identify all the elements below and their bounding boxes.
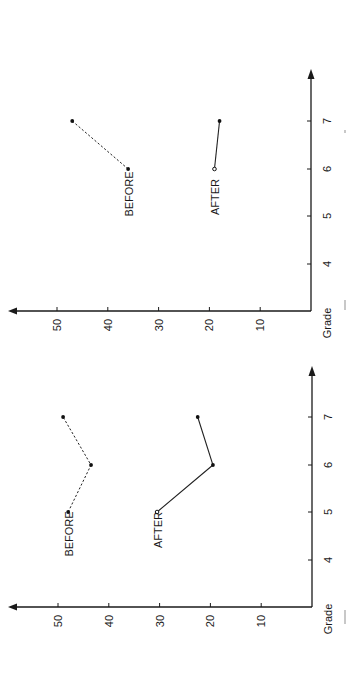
- value-tick-label: 20: [204, 615, 216, 627]
- caption-fragment: [344, 130, 346, 133]
- after-data-point: [211, 463, 215, 467]
- after-series-line: [157, 417, 213, 512]
- value-tick-label: 10: [255, 615, 267, 627]
- caption-fragment: [344, 610, 346, 624]
- grade-axis-arrow-icon: [309, 366, 316, 376]
- grade-tick-label: 6: [322, 462, 334, 468]
- before-series-line: [72, 121, 128, 169]
- value-tick-label: 50: [52, 615, 64, 627]
- before-data-point: [126, 167, 130, 171]
- after-data-point: [213, 167, 217, 171]
- after-series-label: AFTER: [152, 512, 164, 548]
- value-tick-label: 50: [51, 319, 63, 331]
- grade-tick-label: 4: [322, 557, 334, 563]
- value-tick-label: 40: [102, 319, 114, 331]
- chart-canvas: 10203040504567GradeBEFOREAFTER1020304050…: [0, 0, 347, 675]
- caption-fragment: [344, 300, 346, 310]
- value-axis-arrow-icon: [8, 604, 17, 611]
- after-series-label: AFTER: [209, 179, 221, 215]
- value-tick-label: 30: [153, 319, 165, 331]
- before-series-line: [63, 417, 91, 512]
- grade-tick-label: 7: [322, 414, 334, 420]
- value-tick-label: 40: [103, 615, 115, 627]
- grade-tick-label: 5: [321, 213, 333, 219]
- grade-tick-label: 5: [322, 509, 334, 515]
- grade-axis-arrow-icon: [308, 69, 315, 79]
- value-axis-arrow-icon: [8, 308, 17, 315]
- grade-axis-title: Grade: [321, 308, 333, 339]
- grade-axis-title: Grade: [322, 604, 334, 635]
- before-data-point: [70, 119, 74, 123]
- grade-tick-label: 7: [321, 118, 333, 124]
- figure: 10203040504567GradeBEFOREAFTER1020304050…: [0, 0, 347, 675]
- grade-tick-label: 4: [321, 261, 333, 267]
- before-series-label: BEFORE: [63, 511, 75, 556]
- after-data-point: [218, 119, 222, 123]
- after-series-line: [214, 121, 219, 169]
- value-tick-label: 30: [154, 615, 166, 627]
- before-data-point: [61, 415, 65, 419]
- value-tick-label: 20: [203, 319, 215, 331]
- grade-tick-label: 6: [321, 166, 333, 172]
- value-tick-label: 10: [254, 319, 266, 331]
- before-data-point: [89, 463, 93, 467]
- before-series-label: BEFORE: [123, 171, 135, 216]
- after-data-point: [196, 415, 200, 419]
